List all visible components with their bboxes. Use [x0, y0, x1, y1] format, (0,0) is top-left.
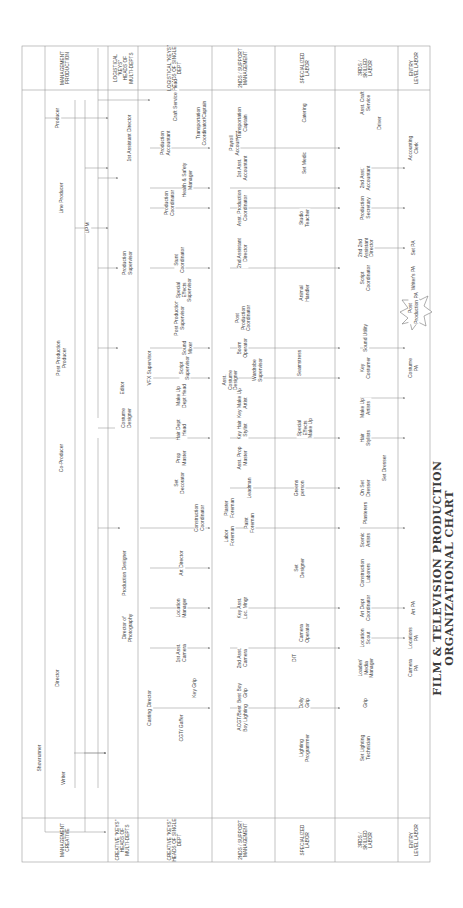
- node-upm: UPM: [85, 222, 91, 234]
- org-chart-canvas: Management Production Logistical "Keys" …: [0, 0, 463, 908]
- node-writer: Writer: [61, 771, 67, 785]
- node-casting-director: Casting Director: [147, 690, 153, 727]
- node-post-production-pa: Post Production PA: [408, 292, 419, 325]
- header-creative-specialized: Specialized Labor: [300, 824, 310, 856]
- node-studio-teacher: Studio Teacher: [299, 209, 310, 228]
- node-locations-pa: Locations PA: [408, 627, 419, 649]
- chart-title: Film & Television Production Organizatio…: [433, 448, 456, 708]
- header-creative-entry: Entry Level Labor: [409, 823, 419, 856]
- header-production-specialized: Specialized Labor: [300, 52, 310, 84]
- node-production-supervisor: Production Supervisor: [122, 251, 133, 276]
- node-key-makeup-artist: Key Make Up Artist: [237, 387, 248, 418]
- node-camera-pa: Camera PA: [408, 659, 419, 678]
- node-construction-laborers: Construction Laborers: [360, 558, 371, 587]
- node-location-manager: Location Manager: [176, 598, 187, 619]
- node-set-decorator: Set Decorator: [174, 472, 185, 495]
- node-sound-utility: Sound Utility: [363, 323, 369, 352]
- node-key-costumer: Key Costumer: [360, 357, 371, 380]
- node-set-designer: Set Designer: [294, 557, 305, 578]
- node-asst-production-coordinator: Asst. Production Coordinator: [237, 189, 248, 226]
- node-plaster-foreman: Plaster Foreman: [224, 497, 235, 518]
- node-production-coordinator: Production Coordinator: [164, 189, 175, 216]
- node-vfx-supervisor: VFX Supervisor: [147, 350, 153, 386]
- node-special-effects-supervisor: Special Effects Supervisor: [176, 278, 193, 303]
- node-prop-master: Prop Master: [176, 450, 187, 466]
- node-transportation-captain: Transportation Captain: [237, 106, 248, 139]
- node-craft-service-head: Craft Service Head: [173, 78, 179, 121]
- node-stunt-coordinator: Stunt Coordinator: [174, 246, 185, 273]
- node-plasterers: Plasterers: [363, 501, 369, 525]
- node-art-dept-coordinator: Art Dept Coordinator: [360, 594, 371, 621]
- node-art-director: Art Director: [179, 550, 185, 576]
- node-costume-pa: Costume PA: [408, 357, 419, 378]
- node-editor: Editor: [120, 381, 126, 395]
- node-location-scout: Location Scout: [360, 628, 371, 648]
- node-asst-costume-designer: Asst. Costume Designer: [222, 369, 239, 390]
- node-asst-prop-master: Asst. Prop Master: [237, 446, 248, 470]
- node-writers-pa: Writer's PA: [411, 265, 417, 290]
- node-showrunner: Showrunner: [37, 744, 43, 772]
- node-script-supervisor: Script Supervisor: [179, 356, 190, 381]
- header-production-skilled: 3rds / Skilled Labor: [358, 58, 374, 79]
- node-scenic-artists: Scenic Artists: [360, 532, 371, 548]
- node-key-grip: Key Grip: [192, 678, 198, 698]
- node-art-pa: Art PA: [411, 600, 417, 615]
- node-set-medic: Set Medic: [302, 151, 308, 174]
- node-animal-handler: Animal Handler: [299, 284, 310, 303]
- header-management-creative: Management Creative: [60, 823, 70, 858]
- node-production-designer: Production Designer: [122, 550, 128, 596]
- node-wardrobe-supervisor: Wardrobe Supervisor: [252, 358, 263, 383]
- node-construction-coordinator: Construction Coordinator: [194, 503, 205, 532]
- node-costume-designer: Costume Designer: [121, 407, 132, 428]
- node-producer: Producer: [55, 107, 61, 128]
- node-special-effects-makeup: Special Effects Make Up: [297, 417, 314, 438]
- node-set-lighting-technician: Set Lighting Technician: [360, 734, 371, 761]
- node-post-production-producer: Post Production Producer: [56, 340, 67, 376]
- node-2nd-ad: 2nd Assistant Director: [237, 238, 248, 269]
- node-makeup-dept-head: Make Up Dept Head: [176, 384, 187, 409]
- node-2nd-asst-camera: 2nd Asst. Camera: [237, 647, 248, 669]
- node-accounting-clerk: Accounting Clerk: [408, 135, 419, 161]
- node-key-hair-stylist: Key Hair Stylist: [237, 420, 248, 440]
- node-lighting-programmer: Lighting Programmer: [299, 734, 310, 763]
- node-production-accountant: Production Accountant: [160, 130, 171, 156]
- node-cgt-gaffer: CGT/ Gaffer: [179, 714, 185, 742]
- node-boom-operator: Boom Operator: [237, 338, 248, 359]
- node-key-asst-loc-mngr: Key Asst. Loc. Mngr: [237, 596, 248, 619]
- node-dit: DIT: [292, 653, 298, 662]
- header-management-production: Management Production: [60, 51, 70, 86]
- node-seamstress: Seamstress: [297, 349, 303, 376]
- node-paint-foreman: Paint Foreman: [244, 512, 255, 533]
- node-asst-craft-service: Asst. Craft Service: [360, 91, 371, 115]
- node-director-of-photography: Director of Photography: [122, 613, 133, 642]
- node-camera-operator: Camera Operator: [299, 623, 310, 644]
- node-catering: Catering: [302, 103, 308, 123]
- node-health-safety-manager: Health & Safety Manager: [182, 162, 193, 198]
- chart-title-line-2: Organizational Chart: [444, 448, 455, 708]
- node-driver: Driver: [377, 116, 383, 130]
- header-creative-support: 2NDs / Support Management: [238, 820, 248, 861]
- node-hair-stylists: Hair Stylists: [360, 430, 371, 447]
- header-creative-skilled: 3rds / Skilled Labor: [358, 830, 374, 851]
- header-creative-keys-multi: Creative "Keys" Heads of Multi-Depts: [115, 819, 131, 861]
- node-2nd-asst-accountant: 2nd Asst. Accountant: [360, 165, 371, 191]
- node-on-set-dresser: On Set Dresser: [360, 479, 371, 498]
- node-makeup-artists: Make Up Artists: [360, 397, 371, 418]
- node-dolly-grip: Dolly Grip: [299, 697, 310, 709]
- node-2nd-2nd-ad: 2nd 2nd Assistant Director: [358, 237, 375, 258]
- node-set-pa: Set PA: [411, 240, 417, 256]
- node-leadman: Leadman: [247, 477, 253, 499]
- header-production-entry: Entry Level Labor: [409, 51, 419, 84]
- node-post-production-supervisor: Post Production Supervisor: [174, 300, 185, 336]
- node-greens-person: Greens person: [294, 479, 305, 496]
- node-best-boy-grip: Best Boy Grip: [237, 682, 248, 703]
- node-grip: Grip: [363, 698, 369, 708]
- node-script-coordinator: Script Coordinator: [360, 264, 371, 291]
- node-sound-mixer: Sound Mixer: [182, 340, 193, 355]
- node-loader-media-manager: Loader/ Media Manager: [358, 658, 375, 679]
- node-production-secretary: Production Secretary: [360, 196, 371, 221]
- header-production-support: 2NDs / Support Management: [238, 48, 248, 89]
- node-1st-asst-camera: 1st Asst. Camera: [176, 643, 187, 663]
- node-acgt-best-boy-lighting: ACGT/Best Boy Lighting: [237, 704, 248, 733]
- header-logistical-keys-multi: Logistical "Keys" Heads of Multi-Depts: [113, 52, 134, 84]
